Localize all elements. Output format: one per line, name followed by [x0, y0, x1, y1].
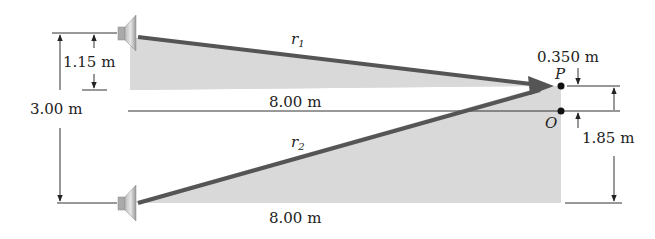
label-point-o: O	[545, 114, 557, 132]
label-p-offset: 0.350 m	[537, 48, 599, 66]
label-r1: r1	[291, 30, 305, 49]
label-top-distance: 8.00 m	[269, 93, 321, 111]
label-point-p: P	[554, 65, 566, 83]
speaker-bottom-icon	[118, 185, 136, 221]
interference-diagram: r1 r2 8.00 m 8.00 m 1.15 m 3.00 m 0.350 …	[0, 0, 655, 239]
label-bottom-distance: 8.00 m	[269, 209, 321, 227]
label-o-offset: 1.85 m	[582, 129, 634, 147]
label-r2: r2	[291, 133, 305, 152]
speaker-top-icon	[118, 15, 136, 51]
label-speaker-separation: 3.00 m	[30, 100, 82, 118]
label-speaker-offset: 1.15 m	[63, 53, 115, 71]
point-o	[558, 108, 565, 115]
point-p	[558, 83, 565, 90]
